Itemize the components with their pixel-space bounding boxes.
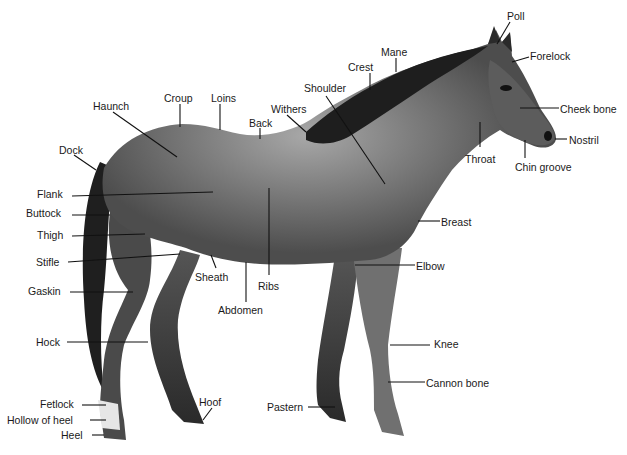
- leader-line-dock: [74, 155, 96, 170]
- label-fetlock: Fetlock: [40, 398, 74, 410]
- label-hoof: Hoof: [199, 396, 221, 408]
- label-hock: Hock: [36, 336, 60, 348]
- body: [103, 30, 556, 265]
- label-cannon-bone: Cannon bone: [426, 377, 489, 389]
- label-crest: Crest: [348, 61, 373, 73]
- front-leg-far: [317, 255, 359, 422]
- label-dock: Dock: [59, 144, 83, 156]
- label-heel: Heel: [61, 429, 83, 441]
- label-stifle: Stifle: [36, 256, 59, 268]
- horse-illustration: [0, 0, 627, 455]
- label-back: Back: [249, 117, 272, 129]
- label-gaskin: Gaskin: [28, 285, 61, 297]
- label-pastern: Pastern: [267, 401, 303, 413]
- label-shoulder: Shoulder: [304, 82, 346, 94]
- label-buttock: Buttock: [26, 207, 61, 219]
- label-withers: Withers: [271, 103, 307, 115]
- label-abdomen: Abdomen: [218, 304, 263, 316]
- label-hollow-of-heel: Hollow of heel: [7, 414, 73, 426]
- label-throat: Throat: [465, 153, 495, 165]
- label-knee: Knee: [434, 338, 459, 350]
- label-forelock: Forelock: [530, 50, 570, 62]
- label-sheath: Sheath: [195, 271, 228, 283]
- label-haunch: Haunch: [93, 100, 129, 112]
- horse-anatomy-diagram: PollForelockManeCrestShoulderCheek boneW…: [0, 0, 627, 455]
- label-chin-groove: Chin groove: [515, 161, 572, 173]
- leader-line-hoof: [203, 408, 212, 420]
- label-cheek-bone: Cheek bone: [560, 103, 617, 115]
- leader-line-forelock: [512, 57, 529, 62]
- label-loins: Loins: [211, 92, 236, 104]
- label-mane: Mane: [381, 46, 407, 58]
- label-ribs: Ribs: [258, 280, 279, 292]
- label-elbow: Elbow: [416, 260, 445, 272]
- label-croup: Croup: [164, 92, 193, 104]
- front-leg-near: [352, 245, 404, 436]
- eye: [500, 85, 512, 91]
- label-nostril: Nostril: [569, 134, 599, 146]
- label-poll: Poll: [507, 10, 525, 22]
- nostril-shape: [544, 131, 552, 141]
- label-flank: Flank: [37, 188, 63, 200]
- label-breast: Breast: [441, 216, 471, 228]
- label-thigh: Thigh: [37, 229, 63, 241]
